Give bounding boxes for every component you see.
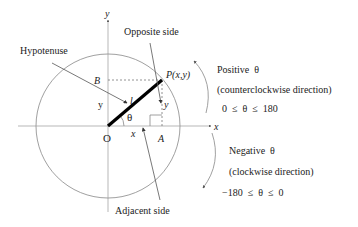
negative-theta-direction: (clockwise direction) [229,166,314,178]
right-angle-marker [150,115,162,126]
hypotenuse-length-label: l [130,95,133,106]
point-a-label: A [157,133,165,144]
point-b-label: B [94,75,100,86]
theta-label: θ [127,111,132,123]
positive-theta-title: Positive θ [217,64,259,75]
hypotenuse-label: Hypotenuse [20,45,68,56]
theta-arc [120,116,124,126]
radius-line [108,80,162,126]
adjacent-side-label: Adjacent side [115,205,170,216]
positive-rotation-arrow [194,61,208,113]
y-axis-label: y [104,8,110,19]
negative-theta-title: Negative θ [229,145,275,156]
x-axis-label: x [213,121,219,132]
y-left-label: y [98,99,103,110]
opposite-side-pointer [150,43,161,103]
y-right-label: y [163,99,169,110]
negative-theta-range: −180 ≤ θ ≤ 0 [222,187,283,198]
opposite-side-label: Opposite side [124,26,179,37]
origin-label: O [103,132,111,144]
point-p-label: P(x,y) [165,69,191,81]
unit-circle-diagram: y x O B A P(x,y) l θ y y x Hypotenuse Op… [0,0,358,227]
positive-theta-range: 0 ≤ θ ≤ 180 [222,103,278,114]
negative-rotation-arrow [203,133,215,188]
x-bottom-label: x [130,128,136,139]
positive-theta-direction: (counterclockwise direction) [217,84,332,96]
hypotenuse-pointer [52,63,127,103]
